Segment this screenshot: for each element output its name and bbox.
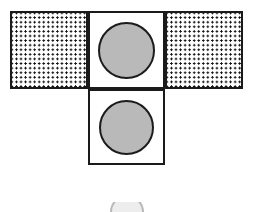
partial-circle-clip	[107, 202, 147, 212]
cell-top-right-dotted	[165, 11, 243, 89]
partial-circle-bottom-edge	[110, 202, 144, 212]
circle-top-center	[98, 22, 155, 79]
figure-canvas	[0, 0, 254, 212]
circle-bottom-center	[99, 100, 154, 155]
cell-top-left-dotted	[10, 11, 88, 89]
